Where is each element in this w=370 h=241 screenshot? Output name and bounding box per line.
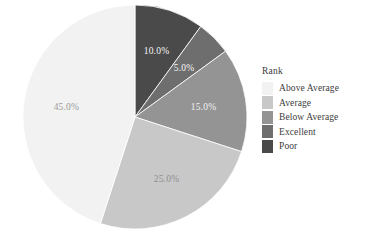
pie-slice-label: 45.0% (54, 102, 80, 112)
legend-item-label: Excellent (279, 127, 316, 137)
pie-chart-figure: 10.0%5.0%15.0%25.0%45.0% Rank Above Aver… (0, 0, 370, 241)
legend-item[interactable]: Poor (262, 139, 366, 153)
legend-item-label: Average (279, 98, 311, 108)
pie-slice-label: 10.0% (144, 46, 170, 56)
pie-svg: 10.0%5.0%15.0%25.0%45.0% (22, 4, 248, 230)
legend-swatch (262, 111, 273, 124)
legend-item-label: Above Average (279, 83, 339, 93)
legend-swatch (262, 82, 273, 95)
legend-item[interactable]: Average (262, 96, 366, 110)
pie-slice-label: 5.0% (174, 63, 195, 73)
legend-swatch (262, 125, 273, 138)
pie-slice-group (23, 5, 247, 229)
legend-swatch (262, 140, 273, 153)
legend-swatch (262, 96, 273, 109)
legend-item[interactable]: Above Average (262, 81, 366, 95)
legend-title: Rank (262, 66, 366, 76)
legend: Rank Above AverageAverageBelow AverageEx… (262, 66, 366, 154)
pie-plot-area: 10.0%5.0%15.0%25.0%45.0% (22, 4, 248, 230)
legend-item-label: Below Average (279, 112, 338, 122)
pie-slice-label: 15.0% (191, 102, 217, 112)
legend-item[interactable]: Below Average (262, 110, 366, 124)
pie-slice-label: 25.0% (154, 174, 180, 184)
figure-caption (0, 236, 370, 241)
legend-item[interactable]: Excellent (262, 125, 366, 139)
legend-item-label: Poor (279, 141, 297, 151)
legend-items: Above AverageAverageBelow AverageExcelle… (262, 81, 366, 153)
